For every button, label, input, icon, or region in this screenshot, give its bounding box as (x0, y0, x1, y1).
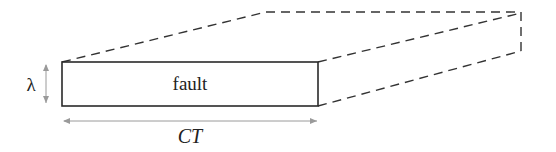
dashed-edge-top-right (318, 13, 521, 62)
fault-diagram: fault λ CT (0, 0, 556, 152)
dashed-edge-bottom-right (318, 51, 521, 106)
dashed-edge-top-left (62, 12, 266, 62)
width-label: CT (178, 125, 204, 147)
fault-label: fault (173, 73, 209, 94)
height-label: λ (26, 74, 36, 95)
